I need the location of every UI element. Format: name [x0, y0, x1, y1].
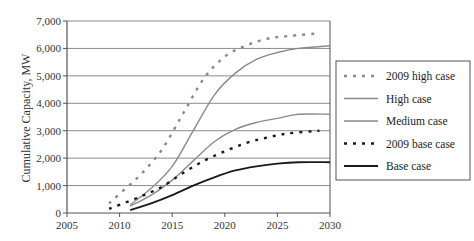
y-tick-label: 6,000	[36, 42, 61, 54]
legend-label-medium-case: Medium case	[386, 115, 448, 127]
legend-label-base-case: Base case	[386, 160, 431, 172]
x-axis-ticks: 200520102015202020252030	[56, 213, 342, 231]
y-tick-label: 7,000	[36, 15, 61, 27]
series-lines	[109, 33, 330, 210]
x-tick-label: 2005	[56, 219, 79, 231]
y-tick-label: 5,000	[36, 70, 61, 82]
x-tick-label: 2020	[214, 219, 237, 231]
legend-label-2009-base-case: 2009 base case	[386, 138, 455, 150]
x-tick-label: 2030	[319, 219, 342, 231]
y-tick-label: 0	[56, 207, 62, 219]
legend-label-2009-high-case: 2009 high case	[386, 70, 455, 83]
capacity-chart: 01,0002,0003,0004,0005,0006,0007,000 200…	[0, 0, 474, 241]
series-medium-case	[130, 114, 330, 206]
y-axis-label: Cumulative Capacity, MW	[19, 53, 33, 183]
legend-label-high-case: High case	[386, 93, 432, 106]
x-tick-label: 2015	[161, 219, 184, 231]
y-axis-ticks: 01,0002,0003,0004,0005,0006,0007,000	[36, 15, 67, 219]
y-tick-label: 3,000	[36, 125, 61, 137]
series-base-case	[130, 162, 330, 210]
x-tick-label: 2025	[266, 219, 289, 231]
y-tick-label: 1,000	[36, 180, 61, 192]
series-high-case	[130, 46, 330, 205]
y-tick-label: 2,000	[36, 152, 61, 164]
gridlines	[67, 21, 330, 186]
legend: 2009 high caseHigh caseMedium case2009 b…	[336, 61, 470, 180]
y-tick-label: 4,000	[36, 97, 61, 109]
x-tick-label: 2010	[109, 219, 132, 231]
